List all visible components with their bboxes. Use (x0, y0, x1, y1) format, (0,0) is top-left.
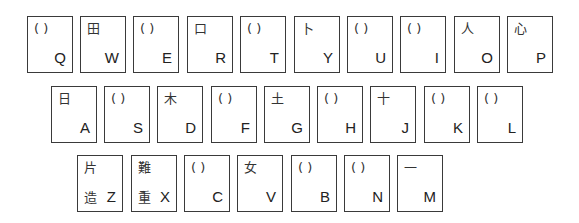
key-f[interactable]: ( )F (211, 86, 257, 143)
key-b[interactable]: ( )B (291, 155, 337, 212)
key-letter: H (345, 120, 356, 136)
key-u[interactable]: ( )U (347, 16, 393, 73)
key-d[interactable]: 木D (157, 86, 203, 143)
key-k[interactable]: ( )K (424, 86, 470, 143)
key-letter: J (402, 120, 410, 136)
key-e[interactable]: ( )E (133, 16, 179, 73)
key-radical: ( ) (298, 161, 312, 175)
key-radical: 日 (58, 92, 71, 106)
key-letter: V (266, 189, 276, 205)
key-letter: B (320, 189, 330, 205)
key-r[interactable]: 口R (187, 16, 233, 73)
key-radical: 片 (84, 161, 97, 175)
key-l[interactable]: ( )L (477, 86, 523, 143)
key-radical-bottom: 重 (138, 191, 151, 205)
key-i[interactable]: ( )I (400, 16, 446, 73)
key-radical: 人 (461, 22, 474, 36)
key-q[interactable]: ( )Q (27, 16, 73, 73)
key-letter: D (185, 120, 196, 136)
key-radical: 女 (244, 161, 257, 175)
key-letter: Y (323, 50, 333, 66)
key-letter: M (424, 189, 437, 205)
key-h[interactable]: ( )H (317, 86, 363, 143)
key-radical: ( ) (140, 22, 154, 36)
key-letter: L (508, 120, 516, 136)
key-radical: 一 (404, 161, 417, 175)
key-t[interactable]: ( )T (240, 16, 286, 73)
key-radical: 卜 (301, 22, 314, 36)
key-radical: 土 (271, 92, 284, 106)
key-letter: A (80, 120, 90, 136)
key-letter: N (372, 189, 383, 205)
key-radical: ( ) (354, 22, 368, 36)
key-letter: E (162, 50, 172, 66)
key-letter: G (291, 120, 303, 136)
key-radical: ( ) (431, 92, 445, 106)
key-radical: ( ) (191, 161, 205, 175)
key-x[interactable]: 難重X (131, 155, 177, 212)
key-n[interactable]: ( )N (344, 155, 390, 212)
key-radical: 口 (194, 22, 207, 36)
key-radical: ( ) (218, 92, 232, 106)
key-radical: 十 (377, 92, 390, 106)
key-z[interactable]: 片造Z (77, 155, 123, 212)
key-v[interactable]: 女V (237, 155, 283, 212)
key-radical: ( ) (34, 22, 48, 36)
key-radical: ( ) (484, 92, 498, 106)
key-w[interactable]: 田W (80, 16, 126, 73)
key-m[interactable]: 一M (397, 155, 443, 212)
key-letter: Q (54, 50, 66, 66)
key-radical: ( ) (111, 92, 125, 106)
key-radical: 田 (87, 22, 100, 36)
key-y[interactable]: 卜Y (294, 16, 340, 73)
key-radical: ( ) (351, 161, 365, 175)
key-radical: ( ) (407, 22, 421, 36)
key-a[interactable]: 日A (51, 86, 97, 143)
key-radical: ( ) (247, 22, 261, 36)
key-c[interactable]: ( )C (184, 155, 230, 212)
key-letter: W (105, 50, 119, 66)
key-letter: P (536, 50, 546, 66)
key-radical: 難 (138, 161, 151, 175)
key-letter: X (160, 189, 170, 205)
key-letter: R (215, 50, 226, 66)
key-radical: 木 (164, 92, 177, 106)
key-letter: T (270, 50, 279, 66)
key-letter: C (212, 189, 223, 205)
key-letter: S (133, 120, 143, 136)
key-s[interactable]: ( )S (104, 86, 150, 143)
key-letter: Z (107, 189, 116, 205)
key-letter: F (241, 120, 250, 136)
key-letter: I (435, 50, 439, 66)
key-letter: K (453, 120, 463, 136)
key-p[interactable]: 心P (507, 16, 553, 73)
key-letter: U (375, 50, 386, 66)
key-radical: 心 (514, 22, 527, 36)
key-j[interactable]: 十J (370, 86, 416, 143)
key-radical-bottom: 造 (84, 191, 97, 205)
key-g[interactable]: 土G (264, 86, 310, 143)
key-letter: O (481, 50, 493, 66)
key-radical: ( ) (324, 92, 338, 106)
key-o[interactable]: 人O (454, 16, 500, 73)
